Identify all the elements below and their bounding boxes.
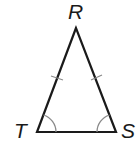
vertex-label-s: S [121,119,135,142]
triangle-diagram: R T S [0,0,138,142]
triangle-rts [37,28,116,132]
vertex-label-t: T [14,119,29,142]
angle-arc-s [97,115,110,132]
angle-arc-t [44,115,57,132]
vertex-label-r: R [68,0,83,23]
